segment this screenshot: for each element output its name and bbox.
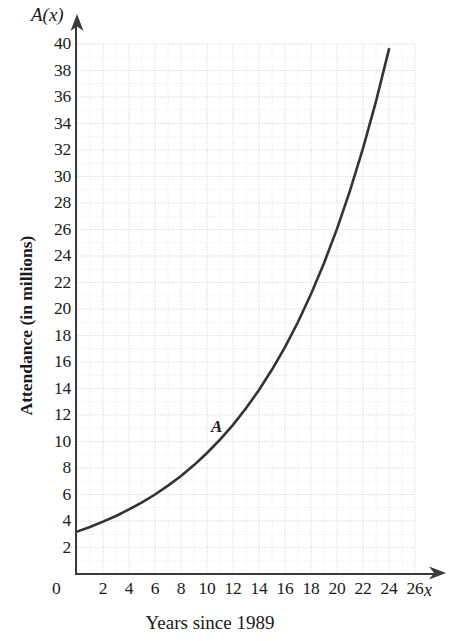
y-tick-label: 14 — [31, 380, 71, 398]
y-tick-label: 28 — [31, 194, 71, 212]
exponential-curve — [77, 49, 389, 531]
y-tick-label: 26 — [31, 221, 71, 239]
y-tick-label: 6 — [31, 486, 71, 504]
x-axis-title: Years since 1989 — [0, 612, 420, 634]
function-notation-label: A(x) — [31, 4, 64, 26]
graph-figure: 246810121416182022242628303234363840 246… — [0, 0, 467, 641]
y-tick-label: 4 — [31, 512, 71, 530]
y-tick-label: 16 — [31, 353, 71, 371]
y-axis-line — [75, 26, 77, 575]
x-axis-tick-labels: 2468101214161820222426 — [77, 580, 437, 604]
x-axis-line — [75, 573, 441, 575]
y-tick-label: 2 — [31, 539, 71, 557]
y-tick-label: 40 — [31, 35, 71, 53]
y-axis-title: Attendance (in millions) — [16, 206, 37, 446]
curve-svg — [77, 44, 415, 574]
y-tick-label: 22 — [31, 274, 71, 292]
y-tick-label: 24 — [31, 247, 71, 265]
y-tick-label: 30 — [31, 168, 71, 186]
y-tick-label: 10 — [31, 433, 71, 451]
y-tick-label: 12 — [31, 406, 71, 424]
y-tick-label: 36 — [31, 88, 71, 106]
y-tick-label: 20 — [31, 300, 71, 318]
y-tick-label: 38 — [31, 62, 71, 80]
y-axis-arrow-icon — [69, 14, 85, 32]
y-tick-label: 32 — [31, 141, 71, 159]
x-variable-label: x — [424, 580, 432, 601]
origin-label: 0 — [52, 580, 61, 598]
y-tick-label: 18 — [31, 327, 71, 345]
plot-area — [77, 44, 415, 574]
curve-label: A — [211, 417, 222, 437]
y-tick-label: 34 — [31, 115, 71, 133]
y-tick-label: 8 — [31, 459, 71, 477]
